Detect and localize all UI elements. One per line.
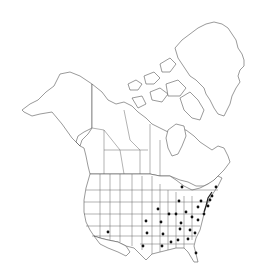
occurrence-dot-florida — [195, 252, 198, 255]
occurrence-dot-north-carolina — [189, 229, 192, 232]
occurrence-dot-missouri — [160, 221, 163, 224]
occurrence-dot-texas — [142, 245, 145, 248]
baffin-island — [180, 92, 204, 120]
occurrence-dot-south-carolina — [194, 232, 197, 235]
occurrence-dot-louisiana — [161, 245, 164, 248]
occurrence-dot-kentucky — [180, 222, 183, 225]
occurrence-dot-indiana — [175, 213, 178, 216]
occurrence-dot-maryland — [203, 213, 206, 216]
alaska — [22, 72, 92, 146]
occurrence-dot-ohio — [185, 211, 188, 214]
occurrence-dot-ontario — [181, 186, 184, 189]
arctic-island — [128, 80, 142, 90]
occurrence-dot-west-virginia — [191, 216, 194, 219]
arctic-island — [150, 88, 168, 102]
arctic-island — [132, 96, 146, 108]
arctic-island — [160, 58, 176, 72]
occurrence-dot-tennessee — [179, 228, 182, 231]
arctic-island — [144, 72, 160, 84]
occurrence-dot-oklahoma — [146, 232, 149, 235]
occurrence-dot-virginia — [197, 219, 200, 222]
occurrence-dot-mississippi — [170, 241, 173, 244]
occurrence-dot-iowa — [157, 208, 160, 211]
occurrence-dot-arizona — [107, 231, 110, 234]
occurrence-dot-maine — [215, 186, 218, 189]
occurrence-dot-georgia — [187, 238, 190, 241]
occurrence-dot-alabama — [177, 239, 180, 242]
occurrence-dot-massachusetts — [211, 195, 214, 198]
occurrence-dot-kansas — [145, 220, 148, 223]
occurrence-dot-arkansas — [162, 233, 165, 236]
occurrence-dot-pennsylvania — [197, 206, 200, 209]
occurrence-dot-new-jersey — [207, 205, 210, 208]
united-states — [84, 174, 222, 262]
arctic-island — [166, 80, 186, 96]
occurrence-dot-connecticut — [209, 199, 212, 202]
occurrence-dot-michigan — [178, 200, 181, 203]
occurrence-dot-illinois — [168, 213, 171, 216]
north-america-distribution-map — [0, 0, 266, 269]
occurrence-dot-new-york — [200, 200, 203, 203]
